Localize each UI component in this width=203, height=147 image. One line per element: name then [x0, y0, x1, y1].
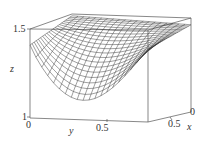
z-tick-1-5: 1.5	[13, 24, 26, 34]
x-tick-0: 0	[190, 107, 195, 117]
y-tick-0-5: 0.5	[96, 123, 109, 133]
x-axis-label: x	[187, 122, 191, 132]
y-tick-0: 0	[26, 120, 31, 130]
bounding-box-front	[27, 18, 191, 122]
y-axis-label: y	[69, 126, 73, 136]
x-tick-0-5: 0.5	[168, 119, 181, 129]
surface-mesh	[30, 16, 191, 101]
z-axis-label: z	[10, 64, 14, 74]
